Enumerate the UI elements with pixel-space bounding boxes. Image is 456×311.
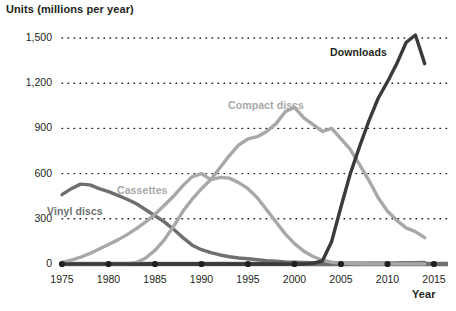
line-chart: Units (millions per year) Year 030060090… — [0, 0, 456, 311]
series-label-cassettes: Cassettes — [117, 184, 168, 196]
x-axis-tick-dot — [198, 261, 204, 267]
x-axis-tick-label: 1985 — [135, 273, 175, 285]
x-axis-tick-label: 2010 — [368, 273, 408, 285]
x-axis-tick-dot — [291, 261, 297, 267]
y-axis-tick-label: 1,500 — [8, 31, 52, 43]
series-line-downloads — [62, 35, 425, 264]
y-axis-tick-label: 300 — [8, 212, 52, 224]
y-axis-tick-label: 0 — [8, 257, 52, 269]
series-label-compact-discs: Compact discs — [228, 99, 304, 111]
series-label-vinyl-discs: Vinyl discs — [47, 205, 103, 217]
x-axis-tick-label: 1975 — [42, 273, 82, 285]
x-axis-tick-dot — [152, 261, 158, 267]
x-axis-tick-dot — [338, 261, 344, 267]
y-axis-tick-label: 1,200 — [8, 76, 52, 88]
x-axis-tick-label: 1990 — [182, 273, 222, 285]
x-axis-tick-dot — [59, 261, 65, 267]
x-axis-tick-dot — [384, 261, 390, 267]
y-axis-tick-label: 900 — [8, 121, 52, 133]
x-axis-tick-dot — [105, 261, 111, 267]
x-axis-tick-label: 2015 — [414, 273, 454, 285]
x-axis-tick-dot — [431, 261, 437, 267]
x-axis-tick-label: 2000 — [275, 273, 315, 285]
x-axis-tick-label: 1995 — [228, 273, 268, 285]
series-label-downloads: Downloads — [330, 46, 387, 58]
y-axis-tick-label: 600 — [8, 167, 52, 179]
x-axis-tick-dot — [245, 261, 251, 267]
x-axis-tick-label: 1980 — [89, 273, 129, 285]
x-axis-tick-label: 2005 — [321, 273, 361, 285]
plot-area — [0, 0, 456, 311]
series-line-vinyl-discs — [62, 184, 425, 263]
